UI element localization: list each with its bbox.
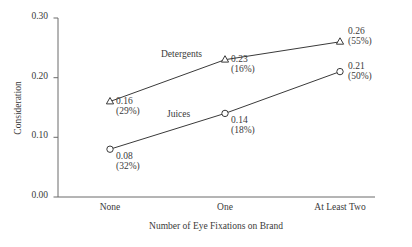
series-label-juices: Juices [167,110,190,120]
x-tick-label-at-least-two: At Least Two [295,203,385,213]
point-label-detergents-one: 0.23 (16%) [231,55,255,75]
point-label-juices-none: 0.08 (32%) [116,152,140,172]
point-label-juices-at-least-two: 0.21 (50%) [348,62,372,82]
marker-juices-at-least-two [337,68,343,74]
y-axis-title: Consideration [14,48,24,168]
x-tick-label-none: None [65,203,155,213]
point-percent-detergents-at-least-two: (55%) [348,37,372,47]
point-label-detergents-at-least-two: 0.26 (55%) [348,27,372,47]
chart-figure: 0.30 0.20 0.10 0.00 Consideration None O… [0,0,412,247]
marker-detergents-at-least-two [336,38,343,44]
x-tick-label-one: One [180,203,270,213]
series-label-detergents: Detergents [161,50,202,60]
point-percent-detergents-one: (16%) [231,65,255,75]
point-label-detergents-none: 0.16 (29%) [116,97,140,117]
point-label-juices-one: 0.14 (18%) [231,116,255,136]
point-percent-detergents-none: (29%) [116,107,140,117]
x-axis-title: Number of Eye Fixations on Brand [51,222,381,232]
marker-juices-one [222,110,228,116]
y-tick-label-0: 0.00 [18,191,48,201]
y-tick-label-3: 0.30 [18,12,48,22]
point-percent-juices-none: (32%) [116,162,140,172]
point-percent-juices-at-least-two: (50%) [348,72,372,82]
marker-juices-none [107,146,113,152]
series-line-detergents [110,42,340,102]
point-percent-juices-one: (18%) [231,126,255,136]
